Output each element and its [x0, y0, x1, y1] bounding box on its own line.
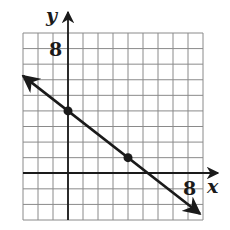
x-tick-label-8: 8 [183, 177, 196, 199]
coordinate-graph: y x 8 8 [0, 0, 230, 230]
data-point [64, 106, 73, 115]
x-axis-label: x [206, 175, 219, 197]
grid-lines [23, 33, 203, 220]
data-point [124, 153, 133, 162]
y-tick-label-8: 8 [49, 38, 62, 60]
y-axis-label: y [45, 4, 59, 26]
